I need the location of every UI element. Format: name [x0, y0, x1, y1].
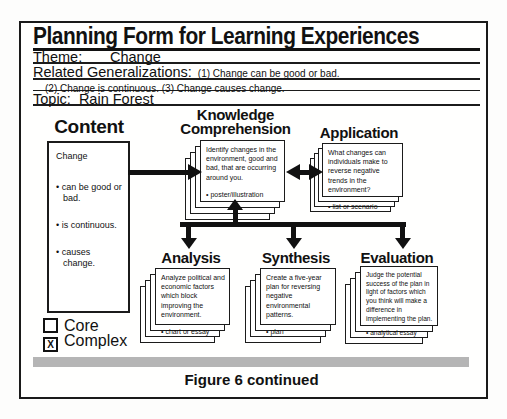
knowledge-comprehension-heading: Knowledge Comprehension — [173, 108, 298, 136]
legend-complex-row: XComplex — [43, 334, 127, 352]
content-bullet: • causes change. — [56, 247, 123, 270]
figure-caption: Figure 6 continued — [19, 371, 484, 388]
divider-bar — [33, 357, 469, 367]
card-bullet: • plan — [266, 327, 332, 336]
topic-value: Rain Forest — [79, 91, 154, 107]
application-card-stack: What changes can individuals make to rev… — [310, 143, 406, 215]
content-to-knowledge-arrow — [128, 170, 190, 175]
card-bullet: • poster/illustration — [206, 190, 281, 199]
generalizations-row-2: (2) Change is continuous. (3) Change cau… — [33, 79, 480, 91]
complex-label: Complex — [64, 332, 127, 349]
core-checkbox-icon — [43, 318, 58, 333]
content-box-title: Change — [56, 151, 123, 163]
evaluation-arrowhead-icon — [395, 238, 411, 249]
synthesis-heading: Synthesis — [255, 251, 337, 265]
card-text: Analyze political and economic factors w… — [161, 273, 226, 319]
theme-value: Change — [110, 49, 161, 65]
application-card: What changes can individuals make to rev… — [322, 143, 403, 197]
theme-label: Theme: — [33, 49, 82, 65]
synthesis-card-stack: Create a five-year plan for reversing ne… — [245, 268, 336, 343]
content-heading: Content — [43, 116, 135, 138]
card-bullet: • chart or essay — [161, 327, 226, 336]
page-title: Planning Form for Learning Experiences — [33, 22, 480, 51]
complex-checkbox-icon: X — [43, 337, 58, 352]
theme-row: Theme: Change — [33, 49, 480, 64]
page-title-text: Planning Form for Learning Experiences — [33, 22, 419, 50]
content-bullet: • can be good or bad. — [56, 182, 123, 205]
topic-row: Topic:Rain Forest — [33, 91, 480, 106]
analysis-card: Analyze political and economic factors w… — [155, 268, 230, 325]
analysis-arrowhead-icon — [181, 238, 197, 249]
evaluation-heading: Evaluation — [356, 251, 438, 265]
topic-label: Topic: — [33, 91, 71, 107]
card-text: Identify changes in the environment, goo… — [206, 145, 281, 182]
legend-core-row: Core — [43, 318, 99, 333]
card-bullet: • list or scenario — [328, 202, 399, 211]
generalization-1: (1) Change can be good or bad. — [198, 68, 340, 79]
generalizations-label: Related Generalizations: — [33, 64, 192, 80]
scanned-document-page: Planning Form for Learning Experiences T… — [0, 0, 507, 419]
application-heading: Application — [313, 126, 405, 140]
evaluation-card-stack: Judge the potential success of the plan … — [345, 266, 438, 344]
evaluation-card: Judge the potential success of the plan … — [360, 266, 438, 326]
knowledge-application-arrowhead-right-icon — [309, 164, 323, 180]
content-to-knowledge-arrowhead-icon — [188, 164, 202, 180]
up-arrow-stem — [233, 209, 238, 224]
generalizations-row: Related Generalizations:(1) Change can b… — [33, 64, 480, 80]
card-text: What changes can individuals make to rev… — [328, 148, 399, 194]
synthesis-card: Create a five-year plan for reversing ne… — [260, 268, 336, 325]
analysis-heading: Analysis — [152, 251, 230, 265]
knowledge-comprehension-card: Identify changes in the environment, goo… — [200, 140, 285, 202]
knowledge-heading-line2: Comprehension — [173, 122, 298, 136]
card-text: Create a five-year plan for reversing ne… — [266, 273, 332, 319]
analysis-card-stack: Analyze political and economic factors w… — [140, 268, 230, 343]
content-bullet: • is continuous. — [56, 220, 123, 232]
card-bullet: • analytical essay — [366, 329, 434, 338]
synthesis-arrowhead-icon — [286, 238, 302, 249]
card-text: Judge the potential success of the plan … — [366, 271, 434, 323]
content-box: Change • can be good or bad. • is contin… — [47, 141, 130, 313]
